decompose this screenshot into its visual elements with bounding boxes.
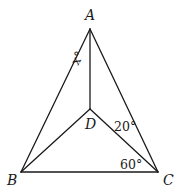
segment-bd [21, 109, 90, 172]
point-label-a: A [83, 7, 95, 23]
point-label-b: B [6, 172, 17, 188]
point-label-d: D [84, 116, 96, 132]
geometry-diagram: A B C D x° 20° 60° [0, 0, 182, 195]
angle-label-bad: x° [67, 49, 86, 68]
segment-ac [90, 29, 158, 172]
angle-label-dca: 20° [114, 119, 136, 134]
angle-label-bcd: 60° [120, 157, 142, 172]
point-label-c: C [163, 172, 174, 188]
segment-ab [21, 29, 90, 172]
